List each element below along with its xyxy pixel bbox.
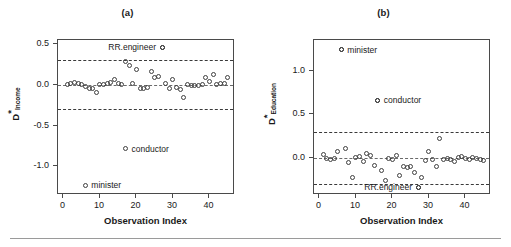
x-tick-label: 40 xyxy=(203,200,213,210)
data-point xyxy=(437,136,442,141)
y-tick-label: 1.0 xyxy=(279,65,305,75)
data-point xyxy=(225,75,230,80)
data-point xyxy=(361,159,366,164)
data-point xyxy=(207,79,212,84)
data-point xyxy=(156,74,161,79)
outlier-point-minister xyxy=(339,47,344,52)
panel-b-y-axis-title-sub: Education xyxy=(271,83,278,114)
y-tick-mark xyxy=(53,165,57,166)
x-tick-mark xyxy=(391,194,392,198)
y-tick-label: -1.0 xyxy=(23,160,49,170)
outlier-point-conductor xyxy=(375,98,380,103)
panel-b-title: (b) xyxy=(256,7,511,18)
x-tick-label: 10 xyxy=(94,200,104,210)
data-point xyxy=(412,170,417,175)
y-tick-mark xyxy=(53,125,57,126)
data-point xyxy=(149,69,154,74)
data-point xyxy=(343,146,348,151)
data-point xyxy=(94,90,99,95)
data-point xyxy=(119,82,124,87)
x-tick-label: 20 xyxy=(386,200,396,210)
data-point xyxy=(426,149,431,154)
x-tick-label: 30 xyxy=(423,200,433,210)
data-point xyxy=(163,81,168,86)
data-point xyxy=(430,157,435,162)
outlier-label-minister: minister xyxy=(91,181,121,190)
panel-a-y-axis-title-star: * xyxy=(5,110,16,114)
panel-b-y-axis-title-main: D xyxy=(266,118,277,125)
data-point xyxy=(350,175,355,180)
bottom-divider xyxy=(10,238,501,239)
data-point xyxy=(170,77,175,82)
y-tick-mark xyxy=(309,113,313,114)
panel-b-y-axis-title: D*Education xyxy=(261,83,276,125)
panel-b-plot-frame: ministerconductorRR.engineer xyxy=(313,39,490,194)
reference-line--0.3 xyxy=(58,109,233,110)
y-tick-mark xyxy=(309,70,313,71)
data-point xyxy=(127,63,132,68)
panel-b-plot-area: ministerconductorRR.engineer xyxy=(314,40,489,193)
data-point xyxy=(335,149,340,154)
x-tick-mark xyxy=(464,194,465,198)
panel-a-title: (a) xyxy=(0,7,255,18)
data-point xyxy=(419,175,424,180)
data-point xyxy=(379,168,384,173)
outlier-point-rr-engineer xyxy=(160,45,165,50)
panel-a-plot-frame: RR.engineerconductorminister xyxy=(57,39,234,194)
outlier-point-minister xyxy=(83,183,88,188)
panel-a-y-axis-title: D*Income xyxy=(5,87,20,120)
data-point xyxy=(332,156,337,161)
x-tick-mark xyxy=(99,194,100,198)
x-tick-mark xyxy=(208,194,209,198)
x-tick-label: 0 xyxy=(60,200,65,210)
outlier-label-conductor: conductor xyxy=(132,144,169,153)
data-point xyxy=(372,163,377,168)
data-point xyxy=(134,67,139,72)
y-tick-label: -0.5 xyxy=(23,120,49,130)
panel-a-y-axis-title-main: D xyxy=(10,114,21,121)
data-point xyxy=(394,153,399,158)
x-tick-label: 30 xyxy=(167,200,177,210)
data-point xyxy=(145,85,150,90)
data-point xyxy=(181,95,186,100)
panel-a-x-axis-title: Observation Index xyxy=(104,215,187,226)
x-tick-label: 40 xyxy=(459,200,469,210)
y-tick-mark xyxy=(309,157,313,158)
outlier-label-rr-engineer: RR.engineer xyxy=(108,43,156,52)
x-tick-mark xyxy=(172,194,173,198)
panel-b-y-axis-title-star: * xyxy=(261,115,272,119)
outlier-point-conductor xyxy=(123,146,128,151)
panel-a-y-axis-title-sub: Income xyxy=(15,87,22,110)
x-tick-label: 10 xyxy=(350,200,360,210)
data-point xyxy=(408,164,413,169)
panel-a-plot-area: RR.engineerconductorminister xyxy=(58,40,233,193)
x-tick-label: 20 xyxy=(130,200,140,210)
data-point xyxy=(452,159,457,164)
y-tick-label: 0.0 xyxy=(23,79,49,89)
outlier-point-rr-engineer xyxy=(416,185,421,190)
data-point xyxy=(434,164,439,169)
data-point xyxy=(222,81,227,86)
y-tick-mark xyxy=(53,84,57,85)
x-tick-label: 0 xyxy=(316,200,321,210)
reference-line-0.3 xyxy=(314,132,489,133)
x-tick-mark xyxy=(62,194,63,198)
outlier-label-rr-engineer: RR.engineer xyxy=(364,183,412,192)
outlier-label-minister: minister xyxy=(347,45,377,54)
y-tick-label: 0.5 xyxy=(23,38,49,48)
data-point xyxy=(211,72,216,77)
data-point xyxy=(346,160,351,165)
x-tick-mark xyxy=(428,194,429,198)
x-tick-mark xyxy=(355,194,356,198)
data-point xyxy=(200,82,205,87)
y-tick-label: 0.5 xyxy=(279,108,305,118)
x-tick-mark xyxy=(135,194,136,198)
data-point xyxy=(178,87,183,92)
data-point xyxy=(423,158,428,163)
y-tick-label: 0.0 xyxy=(279,152,305,162)
panel-b-x-axis-title: Observation Index xyxy=(360,215,443,226)
figure-container: (a) RR.engineerconductorminister 0.50.0-… xyxy=(0,0,511,247)
panel-a: (a) RR.engineerconductorminister 0.50.0-… xyxy=(0,0,255,247)
x-tick-mark xyxy=(318,194,319,198)
data-point xyxy=(481,158,486,163)
